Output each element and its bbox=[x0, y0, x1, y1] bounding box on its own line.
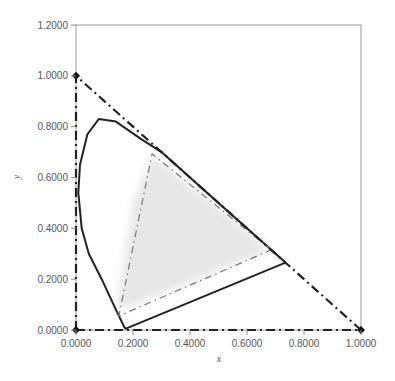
x-tick-label: 0.6000 bbox=[232, 338, 263, 349]
x-tick-label: 0.8000 bbox=[289, 338, 320, 349]
y-tick-label: 0.4000 bbox=[37, 223, 68, 234]
plot-area bbox=[76, 25, 361, 330]
x-tick-label: 0.0000 bbox=[61, 338, 92, 349]
x-tick-label: 1.0000 bbox=[346, 338, 377, 349]
y-tick-label: 1.2000 bbox=[37, 20, 68, 31]
y-tick-label: 0.0000 bbox=[37, 325, 68, 336]
y-tick-label: 0.8000 bbox=[37, 121, 68, 132]
chromaticity-chart: 0.00000.20000.40000.60000.80001.00001.20… bbox=[0, 0, 395, 381]
y-tick-label: 0.2000 bbox=[37, 274, 68, 285]
x-tick-label: 0.4000 bbox=[175, 338, 206, 349]
y-tick-label: 1.0000 bbox=[37, 70, 68, 81]
y-axis-label: y bbox=[11, 174, 22, 180]
y-tick-label: 0.6000 bbox=[37, 172, 68, 183]
x-tick-label: 0.2000 bbox=[118, 338, 149, 349]
x-axis-label: x bbox=[216, 353, 222, 364]
